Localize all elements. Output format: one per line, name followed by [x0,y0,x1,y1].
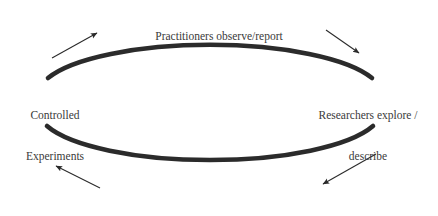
node-label-researchers-line2: describe [300,150,436,164]
diagram-canvas: Practitioners observe/report Researchers… [0,0,438,216]
node-label-researchers-line1: Researchers explore / [300,109,436,123]
node-label-controlled-experiments-line1: Controlled [2,109,108,123]
node-label-controlled-experiments: Controlled Experiments [2,82,108,190]
node-label-practitioners: Practitioners observe/report [0,3,438,71]
node-label-practitioners-text: Practitioners observe/report [0,30,438,44]
node-label-researchers: Researchers explore / describe [300,82,436,190]
node-label-controlled-experiments-line2: Experiments [2,150,108,164]
node-label-profiles: Profiles / Typologies [0,190,438,216]
